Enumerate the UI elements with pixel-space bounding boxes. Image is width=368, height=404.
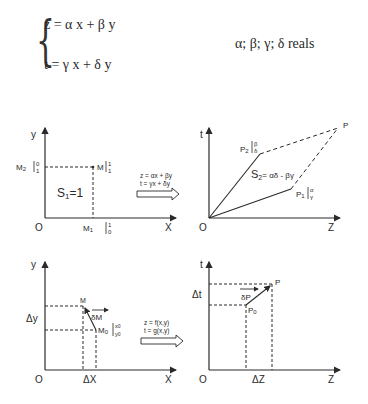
x-axis-label: X <box>165 222 172 233</box>
M2-label: M2 <box>16 163 27 172</box>
M-label: M <box>97 163 104 172</box>
delta-z-label: ΔZ <box>252 374 265 385</box>
t-axis-label: t <box>200 129 203 140</box>
z-axis-label: Z <box>328 222 334 233</box>
area-S2: S2= αδ - βγ <box>251 168 294 181</box>
origin-label: O <box>35 374 43 385</box>
delta-x-label: ΔX <box>83 374 97 385</box>
P-label: P <box>343 121 348 130</box>
P2-coord-bottom: δ <box>254 148 258 154</box>
origin-label: O <box>199 222 207 233</box>
M1-coord-bottom: 0 <box>108 229 112 235</box>
panel-top-right: t Z O P2 β δ P1 α γ P S2= αδ - βγ <box>199 121 348 233</box>
M2-coord-top: 0 <box>36 161 40 167</box>
M0-coord-top: x0 <box>115 323 121 329</box>
transform-top-line2: t = γx + δy <box>140 180 171 188</box>
P1-coord-bottom: γ <box>310 194 313 200</box>
vector-OP1 <box>209 189 291 218</box>
transform-top-line1: z = αx + βy <box>140 172 173 180</box>
hollow-arrow-icon <box>141 335 183 347</box>
transform-bottom-line1: z = f(x,y) <box>144 319 169 327</box>
y-axis-label: y <box>31 259 36 270</box>
area-S1: S1=1 <box>57 186 83 201</box>
delta-t-label: Δt <box>192 289 202 300</box>
transform-top: z = αx + βy t = γx + δy <box>137 172 179 200</box>
origin-label: O <box>35 222 43 233</box>
vector-deltaP-label: δP <box>241 293 251 302</box>
panel-bottom-right: t Z O Δt ΔZ P δP P0 <box>192 259 340 385</box>
M-coord-bottom: 1 <box>108 168 112 174</box>
P-label: P <box>275 278 280 287</box>
M2-coord-bottom: 1 <box>36 168 40 174</box>
M-coord-top: 1 <box>108 161 112 167</box>
P2-label: P2 <box>240 145 249 154</box>
hollow-arrow-icon <box>137 188 179 200</box>
M1-label: M1 <box>83 224 94 233</box>
M0-coord-bottom: y0 <box>115 331 121 337</box>
point-M <box>92 166 95 169</box>
P1-label: P1 <box>296 190 305 199</box>
transform-bottom-line2: t = g(x,y) <box>144 327 169 335</box>
y-axis-label: y <box>31 129 36 140</box>
dashed-P2-P <box>260 128 338 154</box>
origin-label: O <box>199 374 207 385</box>
t-axis-label: t <box>200 259 203 270</box>
z-axis-label: Z <box>328 374 334 385</box>
transform-bottom: z = f(x,y) t = g(x,y) <box>141 319 183 347</box>
M1-coord-top: 1 <box>108 222 112 228</box>
delta-y-label: Δy <box>26 313 38 324</box>
vector-deltaM-label: δM <box>91 313 102 322</box>
M-label: M <box>80 297 86 304</box>
M0-label: M0 <box>98 326 109 335</box>
P0-label: P0 <box>248 306 257 315</box>
dashed-P1-P <box>291 128 338 189</box>
P1-coord-top: α <box>310 187 314 193</box>
x-axis-label: X <box>165 374 172 385</box>
diagram-canvas: y X O M2 0 1 M 1 1 M1 1 0 S1=1 z = αx + … <box>0 0 368 404</box>
P2-coord-top: β <box>254 141 258 147</box>
